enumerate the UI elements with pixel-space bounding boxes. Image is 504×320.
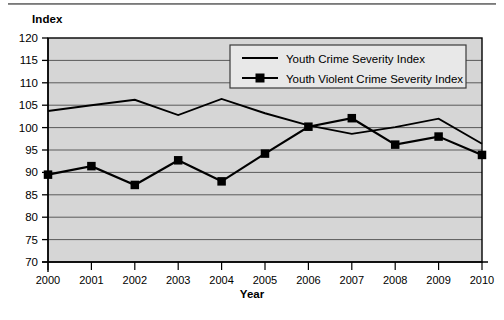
x-tick-label: 2005: [253, 274, 277, 286]
x-axis-ticks-group: 2000200120022003200420052006200720082009…: [36, 262, 494, 286]
x-tick-label: 2010: [470, 274, 494, 286]
series-marker-1: [434, 132, 443, 141]
series-marker-1: [131, 181, 140, 190]
series-marker-1: [87, 162, 96, 171]
chart-figure: Index Year 707580859095100105110115120 2…: [0, 0, 504, 320]
x-tick-label: 2009: [426, 274, 450, 286]
x-tick-label: 2008: [383, 274, 407, 286]
y-axis-ticks-group: 707580859095100105110115120: [19, 32, 48, 268]
y-tick-label: 90: [25, 166, 38, 178]
x-tick-label: 2001: [79, 274, 103, 286]
y-tick-label: 100: [19, 122, 38, 134]
x-tick-label: 2007: [340, 274, 364, 286]
x-tick-label: 2004: [209, 274, 233, 286]
y-tick-label: 115: [20, 54, 38, 66]
series-marker-1: [174, 156, 183, 165]
y-tick-label: 110: [20, 77, 38, 89]
series-marker-1: [304, 122, 313, 131]
y-tick-label: 120: [19, 32, 38, 44]
legend-label-1: Youth Violent Crime Severity Index: [286, 73, 463, 85]
y-tick-label: 80: [25, 211, 38, 223]
series-marker-1: [44, 170, 53, 179]
series-marker-1: [391, 140, 400, 149]
line-chart-svg: 707580859095100105110115120 200020012002…: [0, 0, 504, 320]
series-marker-1: [261, 149, 270, 158]
series-marker-1: [348, 114, 357, 123]
y-tick-label: 105: [19, 99, 38, 111]
series-marker-1: [217, 177, 226, 186]
x-tick-label: 2002: [123, 274, 147, 286]
y-tick-label: 75: [25, 234, 38, 246]
x-tick-label: 2000: [36, 274, 60, 286]
y-tick-label: 95: [25, 144, 38, 156]
series-marker-1: [478, 151, 487, 160]
legend-label-0: Youth Crime Severity Index: [286, 53, 425, 65]
y-tick-label: 70: [25, 256, 38, 268]
chart-legend: Youth Crime Severity IndexYouth Violent …: [230, 45, 466, 88]
x-tick-label: 2006: [296, 274, 320, 286]
x-tick-label: 2003: [166, 274, 190, 286]
legend-swatch-marker-1: [256, 74, 265, 83]
y-tick-label: 85: [25, 189, 38, 201]
